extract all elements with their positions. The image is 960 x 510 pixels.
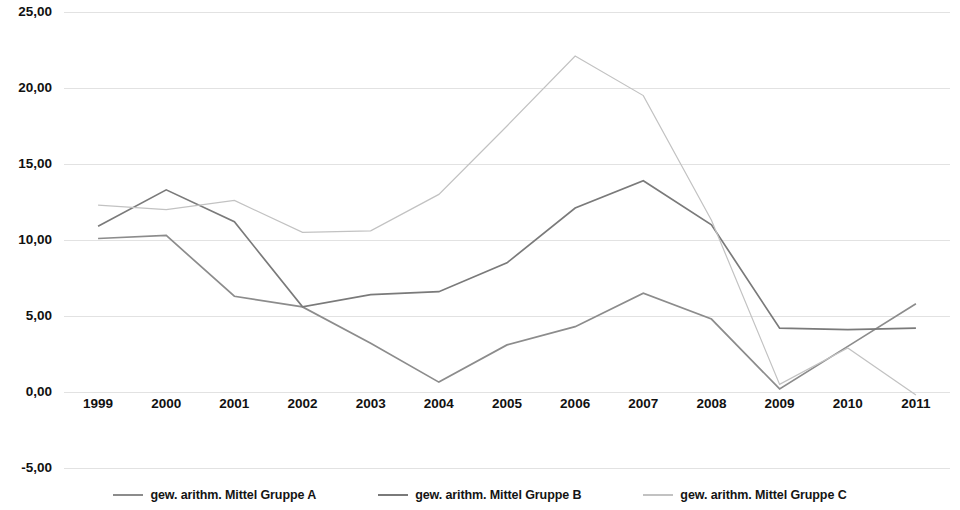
x-axis-tick-label: 1999 bbox=[68, 396, 128, 412]
x-axis-tick-label: 2007 bbox=[613, 396, 673, 412]
x-axis-tick-label: 2011 bbox=[886, 396, 946, 412]
y-axis-tick-label: 10,00 bbox=[0, 233, 52, 247]
x-axis-tick-label: 2004 bbox=[409, 396, 469, 412]
legend-label: gew. arithm. Mittel Gruppe C bbox=[680, 488, 846, 502]
y-axis-tick-label: 20,00 bbox=[0, 81, 52, 95]
x-axis-tick-label: 2002 bbox=[273, 396, 333, 412]
legend-item[interactable]: gew. arithm. Mittel Gruppe B bbox=[378, 488, 581, 502]
y-axis-tick-label: 15,00 bbox=[0, 157, 52, 171]
legend-label: gew. arithm. Mittel Gruppe A bbox=[150, 488, 316, 502]
legend-item[interactable]: gew. arithm. Mittel Gruppe A bbox=[113, 488, 316, 502]
x-axis-tick-label: 2009 bbox=[750, 396, 810, 412]
y-axis-tick-label: -5,00 bbox=[0, 461, 52, 475]
y-axis-tick-label: 0,00 bbox=[0, 385, 52, 399]
series-line-b bbox=[98, 181, 916, 330]
y-axis-tick-label: 25,00 bbox=[0, 5, 52, 19]
legend-item[interactable]: gew. arithm. Mittel Gruppe C bbox=[643, 488, 846, 502]
x-axis-tick-label: 2003 bbox=[341, 396, 401, 412]
x-axis-tick-label: 2005 bbox=[477, 396, 537, 412]
x-axis-tick-label: 2001 bbox=[204, 396, 264, 412]
legend-line-swatch-icon bbox=[643, 494, 673, 496]
x-axis-ticks: 1999200020012002200320042005200620072008… bbox=[64, 396, 950, 418]
chart-legend: gew. arithm. Mittel Gruppe Agew. arithm.… bbox=[0, 484, 960, 506]
legend-label: gew. arithm. Mittel Gruppe B bbox=[415, 488, 581, 502]
x-axis-tick-label: 2010 bbox=[818, 396, 878, 412]
x-axis-tick-label: 2006 bbox=[545, 396, 605, 412]
legend-line-swatch-icon bbox=[378, 494, 408, 496]
series-paths bbox=[98, 56, 916, 395]
x-axis-tick-label: 2008 bbox=[681, 396, 741, 412]
y-axis-tick-label: 5,00 bbox=[0, 309, 52, 323]
line-chart: 25,0020,0015,0010,005,000,00-5,00 199920… bbox=[0, 0, 960, 510]
legend-line-swatch-icon bbox=[113, 494, 143, 496]
x-axis-tick-label: 2000 bbox=[136, 396, 196, 412]
series-line-a bbox=[98, 235, 916, 389]
